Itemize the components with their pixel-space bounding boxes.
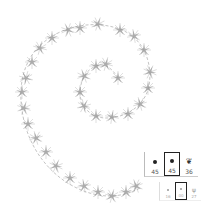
- brush-size-label: 36: [185, 169, 193, 175]
- brush-size-label: 00: [178, 194, 183, 198]
- brush-size-label: 45: [151, 169, 159, 175]
- brush-size-label: 27: [191, 195, 196, 199]
- brush-size-label: 45: [168, 168, 176, 174]
- brush-preset-5-selected[interactable]: 00: [175, 182, 187, 200]
- leaf-scatter-brush-icon: ❦: [186, 158, 193, 166]
- brush-preset-row-1: 45 45 ❦ 36: [144, 152, 198, 177]
- brush-size-label: 16: [165, 195, 170, 199]
- brush-preset-3[interactable]: ❦ 36: [181, 152, 197, 176]
- grass-brush-icon: ψ: [192, 187, 196, 193]
- round-brush-icon: [180, 188, 182, 190]
- round-brush-icon: [153, 160, 157, 164]
- brush-preset-1[interactable]: 45: [147, 152, 163, 176]
- brush-preset-6[interactable]: ψ 27: [188, 182, 200, 200]
- brush-preset-row-2: 16 00 ψ 27: [159, 182, 201, 201]
- brush-preset-4[interactable]: 16: [162, 182, 174, 200]
- round-brush-icon: [170, 159, 174, 163]
- round-brush-icon: [167, 189, 169, 191]
- brush-preset-2-selected[interactable]: 45: [164, 152, 180, 176]
- brush-tips: [15, 15, 159, 205]
